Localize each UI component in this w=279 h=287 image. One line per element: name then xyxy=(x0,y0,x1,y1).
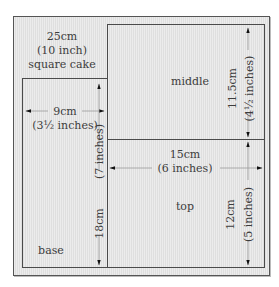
base-width-in: (3½ inches) xyxy=(28,119,102,132)
middle-label: middle xyxy=(160,75,220,88)
top-height-in: (5 inches) xyxy=(242,185,255,245)
outer-size-in: (10 inch) xyxy=(22,44,102,57)
middle-height-in: (4½ inches) xyxy=(243,54,256,124)
outer-size-cm: 25cm xyxy=(22,30,102,43)
base-height-cm: 18cm xyxy=(93,196,106,252)
top-width-in: (6 inches) xyxy=(150,162,220,175)
top-label: top xyxy=(170,200,200,213)
middle-height-cm: 11.5cm xyxy=(226,61,239,117)
top-height-cm: 12cm xyxy=(224,195,237,235)
top-width-cm: 15cm xyxy=(160,148,210,161)
outer-caption: square cake xyxy=(22,58,102,71)
base-label: base xyxy=(36,244,66,257)
base-height-in: (7 inches) xyxy=(93,122,106,182)
base-width-cm: 9cm xyxy=(40,105,90,118)
